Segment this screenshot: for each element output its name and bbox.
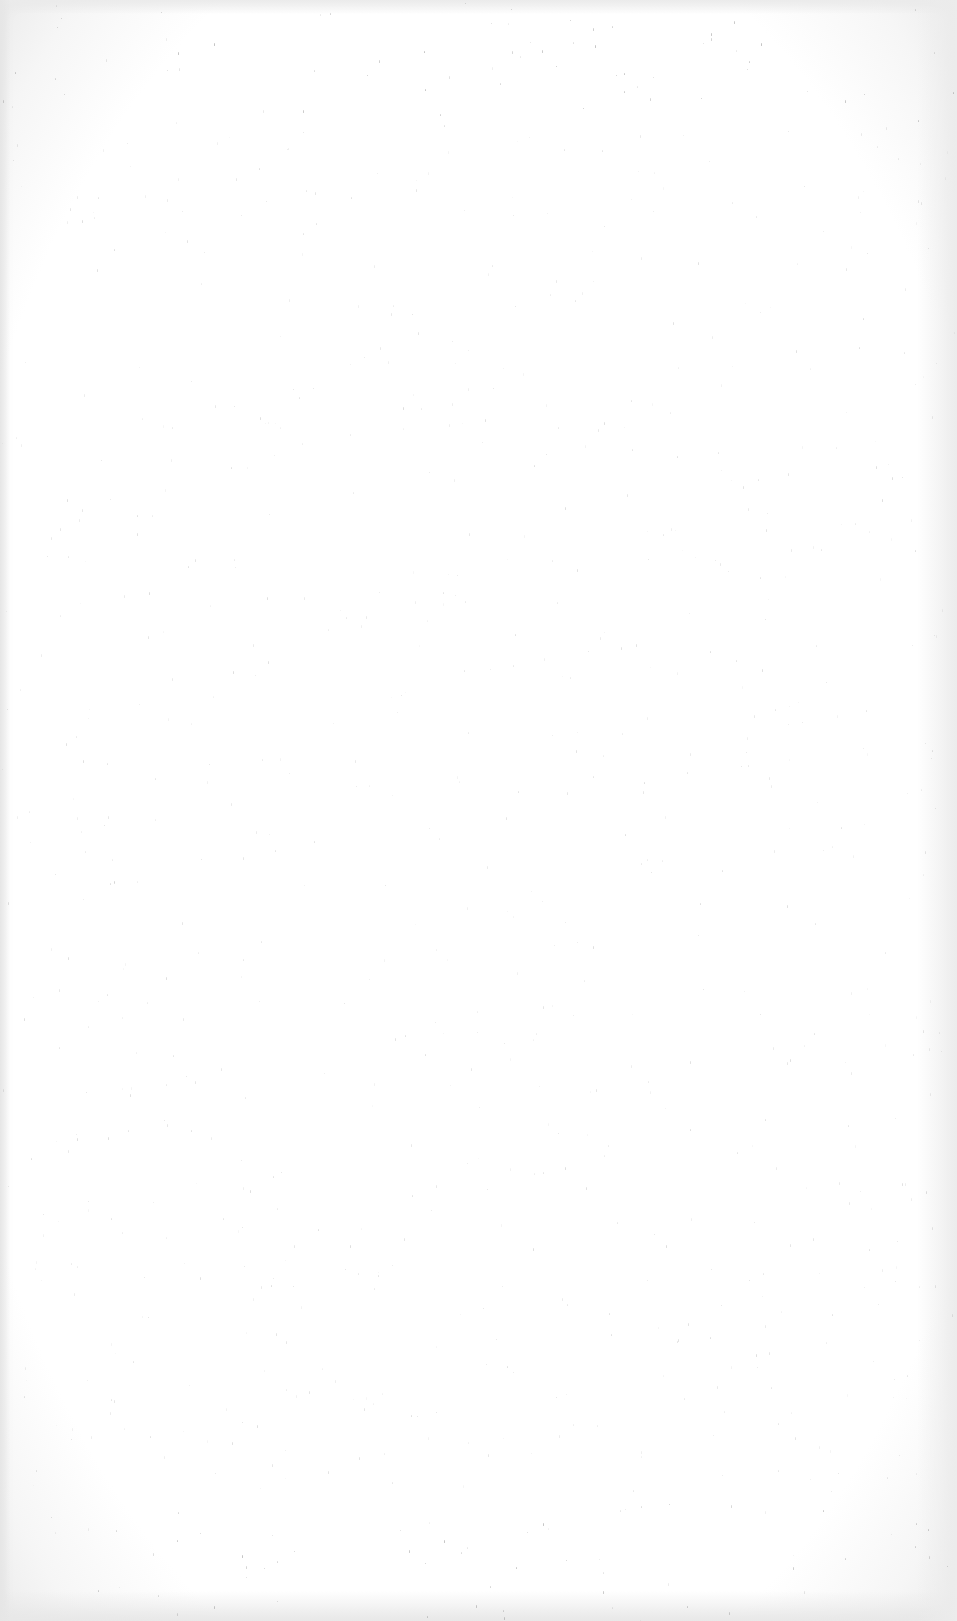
speckle (915, 384, 916, 385)
speckle (152, 515, 153, 517)
speckle (110, 883, 111, 885)
speckle (359, 1457, 360, 1460)
speckle (869, 1249, 870, 1251)
speckle (554, 945, 555, 946)
speckle (244, 1266, 245, 1267)
speckle (663, 534, 664, 536)
speckle (743, 486, 744, 489)
speckle (374, 1083, 375, 1086)
speckle (130, 1094, 131, 1097)
speckle (773, 1047, 774, 1050)
speckle (666, 1245, 667, 1248)
speckle (662, 860, 663, 862)
speckle (15, 72, 16, 74)
speckle (774, 850, 775, 853)
speckle (3, 100, 4, 103)
speckle (148, 1317, 149, 1318)
speckle (101, 460, 102, 461)
speckle (768, 599, 769, 600)
speckle (213, 696, 214, 698)
speckle (650, 98, 651, 101)
speckle (379, 592, 380, 593)
speckle (547, 213, 548, 214)
speckle (431, 1210, 432, 1211)
speckle (703, 43, 704, 44)
speckle (56, 5, 57, 7)
speckle (749, 61, 750, 63)
speckle (913, 1054, 914, 1056)
speckle (675, 530, 676, 531)
speckle (583, 108, 584, 109)
speckle (598, 429, 599, 432)
speckle (765, 1511, 766, 1514)
speckle (246, 1332, 247, 1334)
speckle (556, 280, 557, 283)
speckle (770, 307, 771, 308)
speckle (648, 559, 649, 560)
speckle (891, 1534, 892, 1535)
speckle (260, 417, 261, 420)
speckle (393, 305, 394, 307)
speckle (542, 50, 543, 53)
speckle (463, 1485, 464, 1488)
speckle (364, 357, 365, 358)
speckle (756, 216, 757, 218)
speckle (882, 1269, 883, 1272)
speckle (286, 1341, 287, 1344)
speckle (709, 161, 710, 162)
speckle (98, 1001, 99, 1002)
speckle (182, 211, 183, 212)
speckle (457, 575, 458, 576)
speckle (234, 559, 235, 561)
speckle (905, 1183, 906, 1186)
speckle (493, 388, 494, 389)
speckle (293, 389, 294, 390)
speckle (350, 364, 351, 365)
speckle (648, 1081, 649, 1083)
speckle (377, 173, 378, 174)
speckle (758, 479, 759, 481)
speckle (280, 336, 281, 337)
speckle (328, 1471, 329, 1474)
speckle (603, 755, 604, 757)
speckle (166, 1237, 167, 1239)
speckle (687, 1606, 688, 1608)
speckle (647, 531, 648, 532)
speckle (24, 1018, 25, 1021)
speckle (860, 212, 861, 213)
speckle (888, 464, 889, 465)
speckle (450, 1085, 451, 1086)
speckle (253, 1298, 254, 1301)
speckle (88, 1201, 89, 1202)
speckle (272, 1464, 273, 1467)
speckle (592, 251, 593, 252)
speckle (802, 446, 803, 449)
speckle (771, 1387, 772, 1389)
speckle (98, 197, 99, 199)
speckle (80, 603, 81, 604)
speckle (369, 979, 370, 980)
speckle (575, 300, 576, 302)
speckle (236, 178, 237, 181)
speckle (867, 753, 868, 756)
speckle (929, 1048, 930, 1051)
speckle (416, 189, 417, 192)
speckle (911, 1198, 912, 1201)
speckle (168, 718, 169, 721)
speckle (259, 1001, 260, 1002)
speckle (765, 1119, 766, 1121)
speckle (690, 753, 691, 756)
speckle (612, 26, 613, 28)
speckle (104, 825, 105, 826)
speckle (512, 51, 513, 54)
speckle (56, 1425, 57, 1426)
speckle (85, 851, 86, 853)
speckle (816, 645, 817, 647)
speckle (577, 569, 578, 572)
speckle (166, 977, 167, 980)
speckle (690, 1061, 691, 1064)
speckle (344, 1003, 345, 1004)
speckle (172, 678, 173, 681)
speckle (915, 550, 916, 552)
speckle (91, 1436, 92, 1439)
